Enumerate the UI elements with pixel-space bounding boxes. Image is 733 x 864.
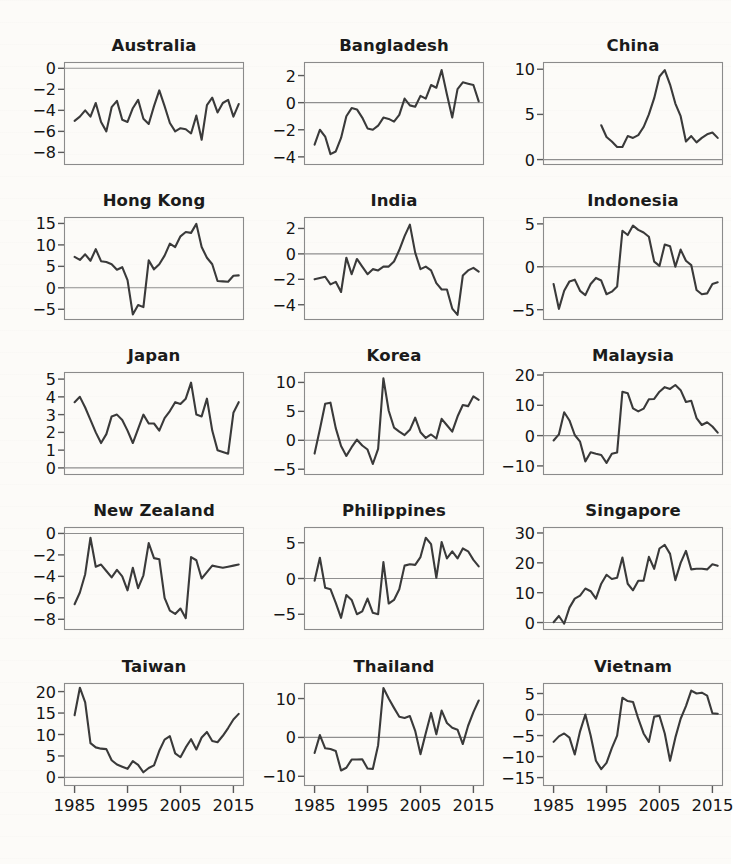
panel-title: Korea bbox=[304, 346, 484, 365]
y-tick-label: −4 bbox=[244, 295, 296, 314]
y-tick-label: 5 bbox=[4, 257, 56, 276]
plot-area bbox=[64, 62, 244, 165]
series-line bbox=[315, 688, 479, 770]
y-tick-label: 15 bbox=[4, 214, 56, 233]
y-tick-label: 5 bbox=[4, 746, 56, 765]
y-tick-label: 0 bbox=[244, 431, 296, 450]
plot-area bbox=[304, 683, 484, 786]
x-tick-label: 2005 bbox=[638, 796, 680, 815]
y-tick-label: 15 bbox=[4, 704, 56, 723]
panel-title: China bbox=[543, 36, 723, 55]
y-tick-label: −2 bbox=[244, 120, 296, 139]
chart-panel-taiwan: Taiwan201510501985199520052015 bbox=[4, 657, 246, 826]
panel-title: Japan bbox=[64, 346, 244, 365]
y-tick-label: −8 bbox=[4, 143, 56, 162]
y-tick-label: 3 bbox=[4, 405, 56, 424]
y-tick-label: 5 bbox=[483, 684, 535, 703]
y-tick-label: 0 bbox=[4, 524, 56, 543]
y-tick-label: 2 bbox=[4, 423, 56, 442]
y-tick-label: 0 bbox=[483, 150, 535, 169]
series-line bbox=[315, 538, 479, 618]
y-tick-label: 20 bbox=[483, 366, 535, 385]
y-tick-label: 0 bbox=[4, 278, 56, 297]
series-line bbox=[601, 70, 717, 147]
y-tick-label: −5 bbox=[483, 300, 535, 319]
y-tick-label: 10 bbox=[4, 725, 56, 744]
y-tick-label: 1 bbox=[4, 441, 56, 460]
y-tick-label: 10 bbox=[483, 396, 535, 415]
panel-frame bbox=[305, 218, 484, 320]
panel-title: Taiwan bbox=[64, 657, 244, 676]
y-tick-label: −10 bbox=[483, 747, 535, 766]
panel-title: Indonesia bbox=[543, 191, 723, 210]
panel-title: New Zealand bbox=[64, 501, 244, 520]
plot-area bbox=[543, 372, 723, 475]
y-tick-label: 0 bbox=[244, 244, 296, 263]
panel-frame bbox=[544, 684, 723, 786]
plot-area bbox=[64, 372, 244, 475]
panel-frame bbox=[305, 373, 484, 475]
chart-panel-thailand: Thailand100−101985199520052015 bbox=[244, 657, 486, 826]
x-tick-label: 2005 bbox=[159, 796, 201, 815]
panel-frame bbox=[544, 528, 723, 630]
y-tick-label: 0 bbox=[4, 458, 56, 477]
panel-title: Bangladesh bbox=[304, 36, 484, 55]
series-line bbox=[75, 688, 239, 773]
plot-area bbox=[304, 372, 484, 475]
y-tick-label: 20 bbox=[483, 553, 535, 572]
y-tick-label: −5 bbox=[4, 300, 56, 319]
series-line bbox=[75, 383, 239, 454]
y-tick-label: 0 bbox=[483, 426, 535, 445]
y-tick-label: 5 bbox=[244, 533, 296, 552]
y-tick-label: −10 bbox=[244, 767, 296, 786]
chart-panel-china: China1050 bbox=[483, 36, 725, 205]
y-tick-label: −10 bbox=[483, 456, 535, 475]
chart-panel-bangladesh: Bangladesh20−2−4 bbox=[244, 36, 486, 205]
series-line bbox=[315, 70, 479, 154]
chart-panel-philippines: Philippines50−5 bbox=[244, 501, 486, 670]
panel-title: Malaysia bbox=[543, 346, 723, 365]
x-tick-label: 2015 bbox=[691, 796, 733, 815]
chart-panel-malaysia: Malaysia20100−10 bbox=[483, 346, 725, 515]
series-line bbox=[554, 545, 718, 624]
panel-frame bbox=[544, 218, 723, 320]
panel-title: Philippines bbox=[304, 501, 484, 520]
y-tick-label: −5 bbox=[483, 726, 535, 745]
y-tick-label: 10 bbox=[483, 60, 535, 79]
x-tick-label: 1995 bbox=[107, 796, 149, 815]
chart-panel-hong-kong: Hong Kong151050−5 bbox=[4, 191, 246, 360]
y-tick-label: 5 bbox=[4, 370, 56, 389]
y-tick-label: −4 bbox=[244, 147, 296, 166]
x-tick-label: 1985 bbox=[294, 796, 336, 815]
y-tick-label: 0 bbox=[244, 569, 296, 588]
x-tick-label: 1985 bbox=[54, 796, 96, 815]
y-tick-label: −4 bbox=[4, 101, 56, 120]
y-tick-label: 0 bbox=[483, 613, 535, 632]
chart-panel-new-zealand: New Zealand0−2−4−6−8 bbox=[4, 501, 246, 670]
y-tick-label: 0 bbox=[4, 59, 56, 78]
series-line bbox=[554, 691, 718, 770]
chart-panel-vietnam: Vietnam50−5−10−151985199520052015 bbox=[483, 657, 725, 826]
y-tick-label: 0 bbox=[244, 728, 296, 747]
y-tick-label: 0 bbox=[244, 93, 296, 112]
series-line bbox=[554, 385, 718, 463]
plot-area bbox=[64, 217, 244, 320]
plot-area bbox=[304, 62, 484, 165]
x-tick-label: 1995 bbox=[586, 796, 628, 815]
panel-frame bbox=[544, 63, 723, 165]
chart-panel-india: India20−2−4 bbox=[244, 191, 486, 360]
x-tick-label: 2005 bbox=[399, 796, 441, 815]
series-line bbox=[75, 538, 239, 618]
panel-title: Thailand bbox=[304, 657, 484, 676]
plot-area bbox=[543, 683, 723, 786]
y-tick-label: −6 bbox=[4, 588, 56, 607]
plot-area bbox=[543, 527, 723, 630]
panel-frame bbox=[305, 63, 484, 165]
y-tick-label: −15 bbox=[483, 768, 535, 787]
y-tick-label: 5 bbox=[483, 105, 535, 124]
panel-frame bbox=[65, 684, 244, 786]
plot-area bbox=[543, 62, 723, 165]
y-tick-label: 0 bbox=[4, 768, 56, 787]
y-tick-label: 0 bbox=[483, 705, 535, 724]
